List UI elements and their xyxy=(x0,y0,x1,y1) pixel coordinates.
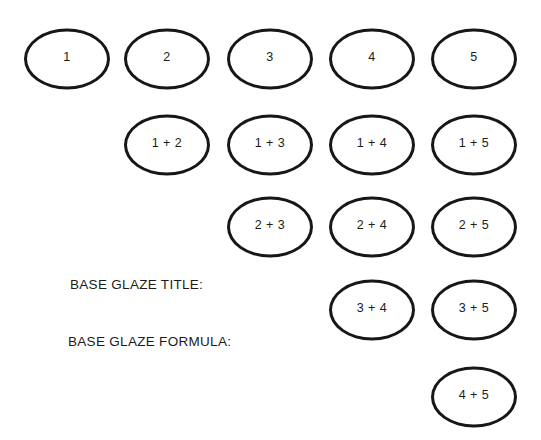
blend-oval-label: 2 xyxy=(163,49,170,63)
base-glaze-title-label: BASE GLAZE TITLE: xyxy=(70,277,203,292)
blend-oval-2: 2 xyxy=(124,29,210,90)
base-glaze-formula-label: BASE GLAZE FORMULA: xyxy=(68,334,231,349)
blend-oval-label: 1 + 4 xyxy=(357,135,388,149)
blend-oval-1+3: 1 + 3 xyxy=(227,115,313,176)
blend-oval-label: 3 xyxy=(266,49,273,63)
blend-oval-label: 1 + 3 xyxy=(255,135,286,149)
blend-oval-label: 3 + 4 xyxy=(357,300,388,314)
blend-oval-5: 5 xyxy=(431,29,517,90)
blend-oval-2+3: 2 + 3 xyxy=(227,197,313,258)
blend-oval-label: 1 + 5 xyxy=(459,135,490,149)
blend-oval-3+4: 3 + 4 xyxy=(329,280,415,341)
blend-oval-label: 1 xyxy=(63,49,70,63)
blend-oval-label: 2 + 3 xyxy=(255,217,286,231)
blend-oval-label: 5 xyxy=(470,49,477,63)
blend-oval-3: 3 xyxy=(227,29,313,90)
blend-oval-label: 1 + 2 xyxy=(152,135,183,149)
blend-oval-label: 4 + 5 xyxy=(459,387,490,401)
blend-oval-label: 4 xyxy=(368,49,375,63)
glaze-blend-diagram: 123451 + 21 + 31 + 41 + 52 + 32 + 42 + 5… xyxy=(0,0,541,440)
blend-oval-4+5: 4 + 5 xyxy=(431,367,517,428)
blend-oval-label: 2 + 4 xyxy=(357,217,388,231)
blend-oval-4: 4 xyxy=(329,29,415,90)
blend-oval-2+4: 2 + 4 xyxy=(329,197,415,258)
blend-oval-label: 2 + 5 xyxy=(459,217,490,231)
blend-oval-1+5: 1 + 5 xyxy=(431,115,517,176)
blend-oval-label: 3 + 5 xyxy=(459,300,490,314)
blend-oval-1+2: 1 + 2 xyxy=(124,115,210,176)
blend-oval-1: 1 xyxy=(24,29,110,90)
blend-oval-1+4: 1 + 4 xyxy=(329,115,415,176)
blend-oval-2+5: 2 + 5 xyxy=(431,197,517,258)
blend-oval-3+5: 3 + 5 xyxy=(431,280,517,341)
